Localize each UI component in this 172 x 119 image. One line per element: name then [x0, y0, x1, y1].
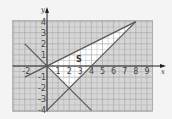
x-tick-label: 7 — [122, 67, 127, 76]
y-tick-label: -1 — [38, 73, 46, 82]
y-tick-label: -3 — [38, 95, 46, 104]
x-tick-label: 2 — [67, 67, 72, 76]
x-axis-label: x — [161, 68, 165, 76]
y-tick-label: -4 — [38, 106, 46, 115]
y-tick-label: 1 — [41, 51, 46, 60]
x-tick-label: 4 — [89, 67, 94, 76]
annotations: S — [76, 55, 82, 64]
y-tick-label: -2 — [38, 84, 46, 93]
x-tick-label: 9 — [144, 67, 149, 76]
region-label: S — [76, 55, 82, 64]
x-tick-label: 5 — [100, 67, 105, 76]
coordinate-plot: xy -21234567894321-1-2-3-4 S — [0, 0, 172, 119]
x-tick-label: 3 — [78, 67, 83, 76]
x-tick-label: -2 — [22, 67, 30, 76]
x-tick-label: 6 — [111, 67, 116, 76]
y-tick-label: 2 — [41, 40, 46, 49]
y-tick-label: 4 — [41, 18, 46, 27]
y-tick-label: 3 — [41, 29, 46, 38]
x-tick-label: 1 — [56, 67, 61, 76]
y-axis-arrow-icon — [45, 7, 49, 13]
x-tick-label: 8 — [133, 67, 138, 76]
